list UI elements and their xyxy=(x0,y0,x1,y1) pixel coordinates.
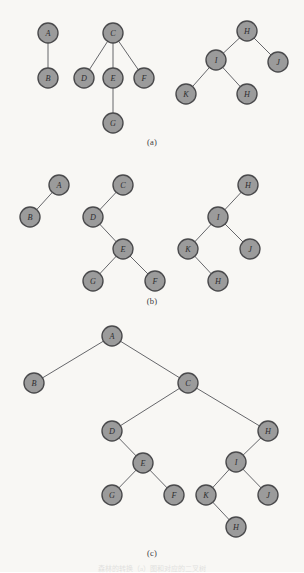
tree-node[interactable]: D xyxy=(74,68,94,88)
tree-edge xyxy=(118,437,136,456)
tree-edge xyxy=(149,469,167,488)
node-label: K xyxy=(202,491,209,500)
node-label: A xyxy=(108,332,115,341)
node-label: K xyxy=(182,90,189,99)
node-label: C xyxy=(110,29,116,38)
panel-caption-a: (a) xyxy=(0,137,304,147)
tree-edge xyxy=(89,41,108,71)
tree-edge xyxy=(242,468,261,488)
node-label: D xyxy=(89,213,96,222)
node-label: A xyxy=(55,181,62,190)
tree-node[interactable]: J xyxy=(240,239,260,259)
node-label: A xyxy=(44,29,51,38)
node-label: B xyxy=(45,74,50,83)
tree-edge xyxy=(224,192,242,211)
tree-node[interactable]: E xyxy=(103,68,123,88)
tree-edge xyxy=(120,341,181,379)
tree-node[interactable]: F xyxy=(145,271,165,291)
tree-edge xyxy=(196,388,261,427)
tree-node[interactable]: E xyxy=(133,453,153,473)
tree-node[interactable]: K xyxy=(196,485,216,505)
tree-node[interactable]: J xyxy=(258,485,278,505)
tree-node[interactable]: B xyxy=(24,373,44,393)
node-label: H xyxy=(244,181,252,190)
tree-node[interactable]: G xyxy=(102,485,122,505)
tree-edge xyxy=(120,388,181,426)
tree-edge xyxy=(99,256,117,275)
tree-node[interactable]: G xyxy=(83,271,103,291)
tree-node[interactable]: H xyxy=(226,517,246,537)
tree-edge xyxy=(194,256,212,275)
tree-node[interactable]: C xyxy=(178,373,198,393)
tree-node[interactable]: B xyxy=(38,68,58,88)
node-label: K xyxy=(184,245,191,254)
tree-node[interactable]: B xyxy=(20,207,40,227)
tree-node[interactable]: I xyxy=(208,207,228,227)
node-label: G xyxy=(110,119,116,128)
node-label: D xyxy=(80,74,87,83)
tree-node[interactable]: D xyxy=(102,421,122,441)
tree-edge xyxy=(118,469,136,488)
tree-edge xyxy=(222,67,241,88)
node-label: G xyxy=(109,491,115,500)
tree-node[interactable]: H xyxy=(208,271,228,291)
panel-caption-c: (c) xyxy=(0,548,304,558)
node-label: C xyxy=(120,181,126,190)
node-label: J xyxy=(276,58,280,67)
tree-node[interactable]: D xyxy=(83,207,103,227)
tree-node[interactable]: H xyxy=(258,421,278,441)
node-label: E xyxy=(139,459,145,468)
tree-edge xyxy=(242,437,261,455)
node-label: H xyxy=(232,523,240,532)
tree-edge xyxy=(192,67,210,88)
tree-node[interactable]: I xyxy=(226,452,246,472)
tree-edge xyxy=(194,224,212,243)
tree-node[interactable]: F xyxy=(164,485,184,505)
node-label: F xyxy=(140,74,147,83)
tree-edge xyxy=(118,40,139,70)
tree-node[interactable]: A xyxy=(102,326,122,346)
nodes-layer: ABCDEFGHIJKHABCDEGFHIKJHABCDHEIGFKJH xyxy=(20,21,288,537)
node-label: C xyxy=(185,379,191,388)
tree-edge xyxy=(42,341,105,379)
node-label: E xyxy=(109,74,115,83)
node-label: B xyxy=(31,379,36,388)
node-label: B xyxy=(27,213,32,222)
tree-edge xyxy=(99,192,117,211)
tree-edge xyxy=(224,223,243,242)
node-label: F xyxy=(170,491,177,500)
node-label: F xyxy=(151,277,158,286)
node-label: G xyxy=(90,277,96,286)
tree-edge xyxy=(212,502,230,521)
tree-edge xyxy=(223,37,241,54)
node-label: H xyxy=(264,427,272,436)
tree-node[interactable]: K xyxy=(178,239,198,259)
tree-node[interactable]: E xyxy=(113,239,133,259)
node-label: E xyxy=(119,245,125,254)
tree-edge xyxy=(36,192,53,211)
tree-node[interactable]: H xyxy=(238,175,258,195)
tree-node[interactable]: C xyxy=(103,23,123,43)
tree-node[interactable]: J xyxy=(268,52,288,72)
node-label: J xyxy=(248,245,252,254)
figure-bottom-caption: 森林的转换（a）图和对应的二叉树 xyxy=(0,563,304,573)
tree-node[interactable]: G xyxy=(103,113,123,133)
tree-edge xyxy=(253,37,271,55)
tree-node[interactable]: I xyxy=(206,50,226,70)
tree-node[interactable]: C xyxy=(113,175,133,195)
node-label: H xyxy=(243,90,251,99)
node-label: H xyxy=(243,27,251,36)
tree-node[interactable]: H xyxy=(237,21,257,41)
tree-edge xyxy=(129,255,148,274)
tree-node[interactable]: A xyxy=(38,23,58,43)
tree-node[interactable]: A xyxy=(49,175,69,195)
tree-node[interactable]: F xyxy=(134,68,154,88)
tree-node[interactable]: K xyxy=(176,84,196,104)
tree-edge xyxy=(212,469,230,489)
panel-caption-b: (b) xyxy=(0,296,304,306)
node-label: J xyxy=(266,491,270,500)
tree-edge xyxy=(99,224,117,243)
tree-node[interactable]: H xyxy=(237,84,257,104)
